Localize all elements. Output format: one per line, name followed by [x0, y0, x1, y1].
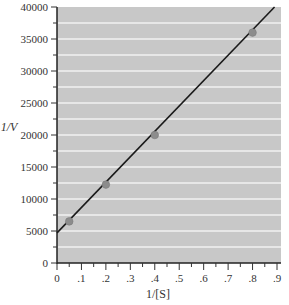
- x-tick-label: .9: [273, 272, 282, 284]
- lineweaver-burk-chart: 0.1.2.3.4.5.6.7.8.9 05000100001500020000…: [0, 0, 289, 305]
- x-tick-label: .8: [248, 272, 257, 284]
- data-point-marker: [65, 218, 73, 226]
- y-tick-label: 10000: [21, 193, 49, 205]
- y-tick-label: 5000: [26, 225, 49, 237]
- y-tick-label: 0: [43, 257, 49, 269]
- data-point-marker: [249, 29, 257, 37]
- data-point-marker: [102, 181, 110, 189]
- y-tick-label: 20000: [21, 129, 49, 141]
- x-tick-label: .3: [126, 272, 135, 284]
- y-tick-label: 15000: [21, 161, 49, 173]
- x-axis-ticks: 0.1.2.3.4.5.6.7.8.9: [54, 263, 281, 284]
- x-tick-label: .4: [151, 272, 160, 284]
- data-point-marker: [151, 131, 159, 139]
- y-tick-label: 25000: [21, 97, 49, 109]
- y-tick-label: 35000: [21, 33, 49, 45]
- y-axis-label: 1/V: [1, 120, 19, 134]
- x-tick-label: .7: [224, 272, 233, 284]
- x-tick-label: .2: [102, 272, 110, 284]
- chart-canvas: 0.1.2.3.4.5.6.7.8.9 05000100001500020000…: [0, 0, 289, 305]
- x-axis-label: 1/[S]: [146, 287, 170, 301]
- y-tick-label: 30000: [21, 65, 49, 77]
- y-axis-ticks: 0500010000150002000025000300003500040000: [21, 1, 58, 269]
- x-tick-label: .5: [175, 272, 184, 284]
- x-tick-label: .6: [200, 272, 209, 284]
- y-tick-label: 40000: [21, 1, 49, 13]
- x-tick-label: .1: [77, 272, 85, 284]
- x-tick-label: 0: [54, 272, 60, 284]
